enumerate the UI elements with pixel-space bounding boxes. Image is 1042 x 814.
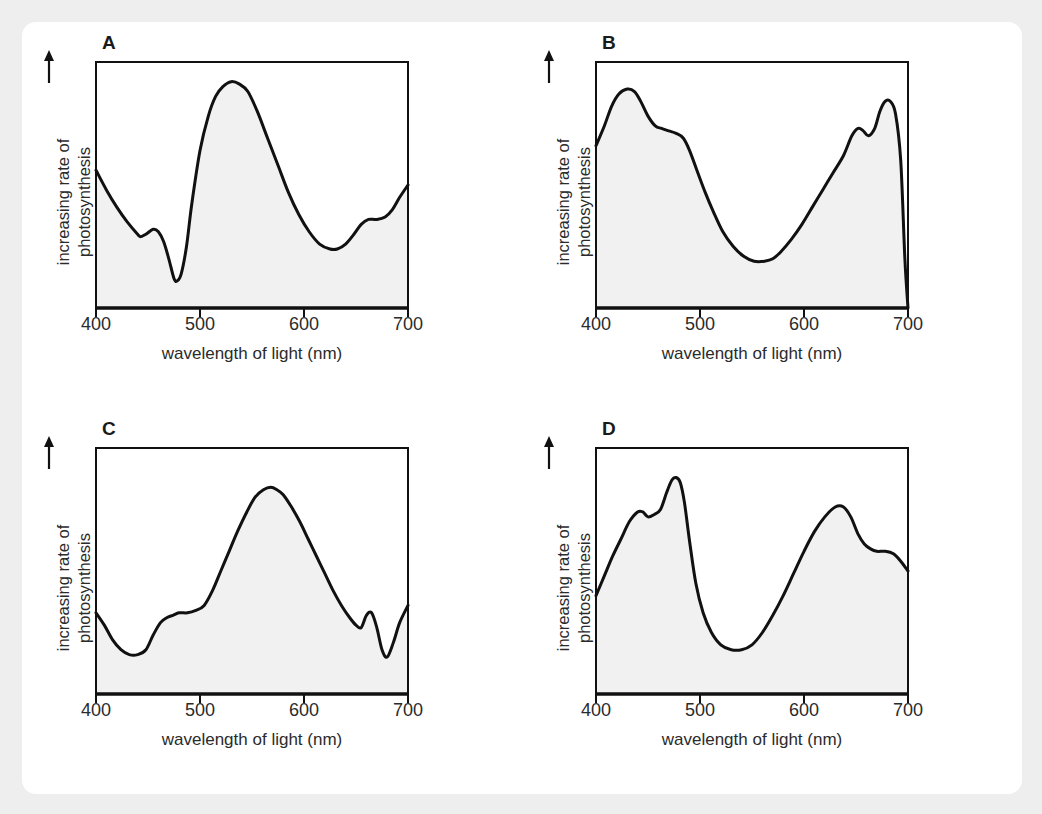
panel-letter-c: C — [102, 418, 116, 440]
y-axis-label-b: increasing rate of photosynthesis — [552, 92, 596, 312]
panel-b: B increasing rate of photosynthesis 4005… — [522, 22, 1022, 408]
x-tick-label: 600 — [289, 700, 319, 721]
plot-area-d — [596, 448, 908, 694]
up-arrow-icon — [540, 50, 558, 84]
x-axis-title-d: wavelength of light (nm) — [562, 730, 942, 750]
plot-area-c — [96, 448, 408, 694]
x-tick-label: 500 — [185, 314, 215, 335]
x-tick-label: 500 — [685, 700, 715, 721]
panel-letter-d: D — [602, 418, 616, 440]
curve-fill — [596, 477, 908, 694]
x-axis-title-c: wavelength of light (nm) — [62, 730, 442, 750]
panel-grid: A increasing rate of photosynthesis 4005… — [22, 22, 1022, 794]
y-axis-label-line1: increasing rate of — [553, 525, 574, 652]
x-axis-title-a: wavelength of light (nm) — [62, 344, 442, 364]
x-tick-label: 700 — [393, 700, 423, 721]
panel-c: C increasing rate of photosynthesis 4005… — [22, 408, 522, 794]
y-axis-label-line1: increasing rate of — [53, 525, 74, 652]
panel-letter-a: A — [102, 32, 116, 54]
panel-a: A increasing rate of photosynthesis 4005… — [22, 22, 522, 408]
x-tick-label: 700 — [893, 314, 923, 335]
x-tick-labels-d: 400500600700 — [596, 700, 908, 724]
figure-card: A increasing rate of photosynthesis 4005… — [22, 22, 1022, 794]
x-tick-label: 600 — [789, 700, 819, 721]
curve-fill — [96, 82, 408, 308]
y-axis-label-c: increasing rate of photosynthesis — [52, 478, 96, 698]
up-arrow-icon — [40, 50, 58, 84]
x-axis-title-b: wavelength of light (nm) — [562, 344, 942, 364]
plot-area-a — [96, 62, 408, 308]
x-tick-label: 500 — [185, 700, 215, 721]
y-axis-label-d: increasing rate of photosynthesis — [552, 478, 596, 698]
x-tick-label: 400 — [581, 700, 611, 721]
spectrum-chart-c — [96, 448, 408, 694]
x-tick-label: 400 — [81, 314, 111, 335]
y-axis-label-line2: photosynthesis — [574, 525, 595, 652]
x-tick-labels-a: 400500600700 — [96, 314, 408, 338]
plot-area-b — [596, 62, 908, 308]
x-tick-label: 400 — [81, 700, 111, 721]
x-tick-label: 700 — [893, 700, 923, 721]
up-arrow-icon — [540, 436, 558, 470]
x-tick-label: 600 — [289, 314, 319, 335]
x-tick-label: 600 — [789, 314, 819, 335]
y-axis-label-line2: photosynthesis — [74, 525, 95, 652]
curve-fill — [596, 89, 908, 308]
spectrum-chart-a — [96, 62, 408, 308]
x-tick-labels-b: 400500600700 — [596, 314, 908, 338]
y-axis-label-line1: increasing rate of — [53, 139, 74, 266]
panel-d: D increasing rate of photosynthesis 4005… — [522, 408, 1022, 794]
x-tick-label: 700 — [393, 314, 423, 335]
up-arrow-icon — [40, 436, 58, 470]
y-axis-label-line2: photosynthesis — [74, 139, 95, 266]
y-axis-label-line1: increasing rate of — [553, 139, 574, 266]
x-tick-label: 400 — [581, 314, 611, 335]
x-tick-label: 500 — [685, 314, 715, 335]
y-axis-label-line2: photosynthesis — [574, 139, 595, 266]
curve-fill — [96, 487, 408, 694]
spectrum-chart-b — [596, 62, 908, 308]
panel-letter-b: B — [602, 32, 616, 54]
spectrum-chart-d — [596, 448, 908, 694]
y-axis-label-a: increasing rate of photosynthesis — [52, 92, 96, 312]
x-tick-labels-c: 400500600700 — [96, 700, 408, 724]
